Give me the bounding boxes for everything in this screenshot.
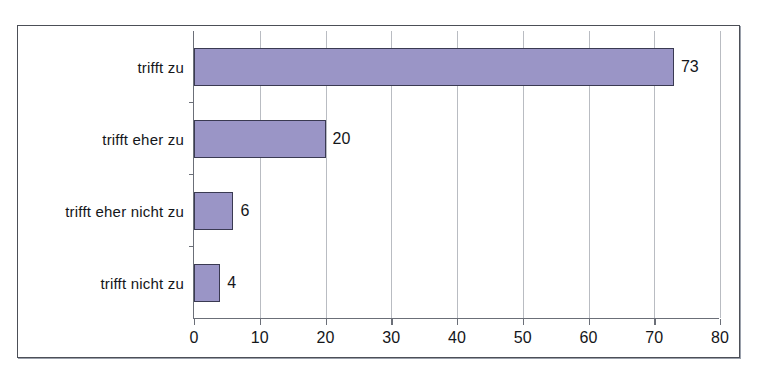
x-axis-tick-label: 80 [711,329,729,347]
chart-category-row: trifft zu73 [194,31,719,103]
x-axis-tick-label: 50 [514,329,532,347]
bar [194,264,220,302]
chart-category-row: trifft nicht zu4 [194,247,719,319]
scan-top-text-sliver [0,0,757,14]
x-axis-tick-40 [457,319,458,325]
bar-value-label: 6 [240,202,249,220]
category-label: trifft zu [137,59,184,76]
x-axis-tick-10 [260,319,261,325]
x-axis-tick-label: 10 [251,329,269,347]
x-axis-tick-label: 60 [580,329,598,347]
chart-category-row: trifft eher nicht zu6 [194,175,719,247]
x-axis-tick-label: 70 [645,329,663,347]
chart-category-row: trifft eher zu20 [194,103,719,175]
x-axis-tick-label: 30 [382,329,400,347]
bar [194,192,233,230]
bar [194,120,326,158]
bar-value-label: 73 [681,58,699,76]
category-label: trifft nicht zu [100,275,184,292]
x-axis-tick-20 [326,319,327,325]
chart-frame: 01020304050607080trifft zu73trifft eher … [17,25,740,358]
category-label: trifft eher zu [102,131,184,148]
x-axis-tick-60 [589,319,590,325]
x-axis-tick-50 [523,319,524,325]
x-axis-tick-30 [391,319,392,325]
x-axis-tick-0 [194,319,195,325]
x-axis-tick-80 [720,319,721,325]
bar [194,48,674,86]
x-axis-tick-70 [654,319,655,325]
category-label: trifft eher nicht zu [65,203,184,220]
plot-area: 01020304050607080trifft zu73trifft eher … [193,31,719,319]
bar-value-label: 4 [227,274,236,292]
bar-value-label: 20 [333,130,351,148]
gridline-80 [720,31,721,318]
x-axis-tick-label: 0 [190,329,199,347]
x-axis-tick-label: 40 [448,329,466,347]
x-axis-tick-label: 20 [317,329,335,347]
